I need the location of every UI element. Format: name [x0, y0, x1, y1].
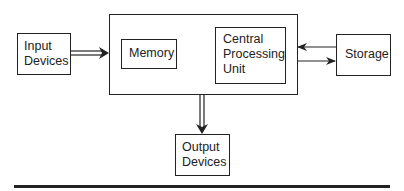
cpu-label-line2: Processing — [223, 47, 285, 62]
cpu-label-line1: Central — [223, 32, 263, 47]
output-devices-label-line2: Devices — [182, 155, 226, 170]
input-devices-label-line2: Devices — [24, 54, 68, 69]
cpu-box: Central Processing Unit — [215, 27, 286, 84]
input-devices-label-line1: Input — [24, 39, 52, 54]
input-to-computer-arrow — [70, 47, 109, 59]
memory-label: Memory — [129, 46, 174, 61]
cpu-label-line3: Unit — [223, 62, 245, 77]
storage-box: Storage — [336, 34, 391, 76]
storage-label: Storage — [345, 47, 389, 62]
memory-box: Memory — [121, 39, 177, 69]
bottom-divider — [14, 185, 390, 188]
output-devices-box: Output Devices — [175, 134, 230, 176]
input-devices-box: Input Devices — [17, 33, 71, 75]
computer-to-output-arrow — [196, 94, 208, 134]
output-devices-label-line1: Output — [182, 140, 220, 155]
